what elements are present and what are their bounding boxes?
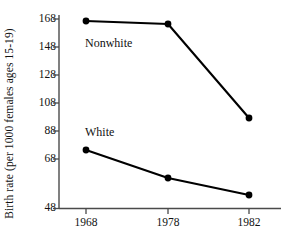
y-axis-ticks — [53, 19, 59, 209]
data-point-white-1982 — [246, 192, 253, 199]
series-line-white — [86, 150, 249, 195]
data-point-nonwhite-1978 — [165, 21, 172, 28]
data-point-white-1978 — [165, 175, 172, 182]
data-point-nonwhite-1982 — [246, 115, 253, 122]
series-nonwhite — [83, 18, 253, 122]
x-axis-ticks — [86, 209, 249, 215]
line-chart: Birth rate (per 1000 females ages 15-19)… — [0, 0, 295, 247]
data-point-white-1968 — [83, 147, 90, 154]
plot-area — [0, 0, 295, 247]
series-line-nonwhite — [86, 21, 249, 118]
data-point-nonwhite-1968 — [83, 18, 90, 25]
series-white — [83, 147, 253, 199]
